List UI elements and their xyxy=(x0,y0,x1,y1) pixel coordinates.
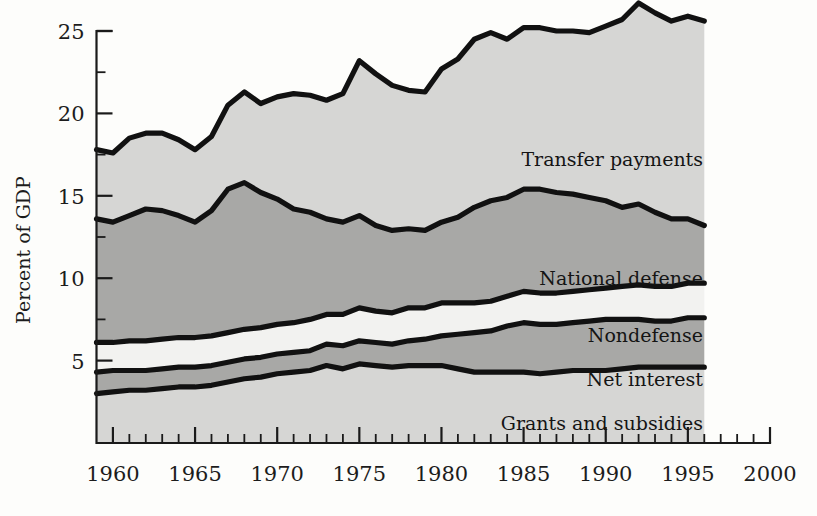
x-tick-label: 1960 xyxy=(86,462,139,486)
x-tick-label: 1985 xyxy=(497,462,550,486)
series-label-nondefense: Nondefense xyxy=(588,324,703,346)
figure-container: 5101520251960196519701975198019851990199… xyxy=(0,0,817,516)
y-tick-label: 25 xyxy=(58,20,85,44)
y-tick-label: 5 xyxy=(71,350,84,374)
x-tick-label: 1965 xyxy=(168,462,221,486)
x-tick-label: 2000 xyxy=(743,462,796,486)
x-tick-label: 1995 xyxy=(661,462,714,486)
series-label-grants-and-subsidies: Grants and subsidies xyxy=(501,412,703,434)
series-label-national-defense: National defense xyxy=(539,267,703,289)
series-label-transfer-payments: Transfer payments xyxy=(521,148,703,170)
x-tick-label: 1970 xyxy=(250,462,303,486)
x-tick-label: 1975 xyxy=(333,462,386,486)
y-tick-label: 10 xyxy=(58,267,85,291)
x-tick-label: 1980 xyxy=(415,462,468,486)
stacked-area-chart: 5101520251960196519701975198019851990199… xyxy=(0,0,817,516)
y-tick-label: 20 xyxy=(58,102,85,126)
series-label-net-interest: Net interest xyxy=(587,368,704,390)
y-tick-label: 15 xyxy=(58,185,85,209)
y-axis-title: Percent of GDP xyxy=(12,176,34,324)
area-band-transfer-payments xyxy=(97,3,705,230)
x-tick-label: 1990 xyxy=(579,462,632,486)
